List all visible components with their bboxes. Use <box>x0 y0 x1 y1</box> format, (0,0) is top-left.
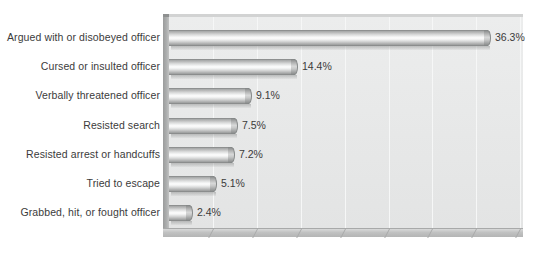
bar-value-label: 5.1% <box>221 177 245 190</box>
category-label: Grabbed, hit, or fought officer <box>0 206 160 218</box>
bar-end-cap <box>210 176 217 192</box>
bar-shadow <box>171 104 251 108</box>
bar-end-cap <box>186 205 193 221</box>
category-label: Resisted arrest or handcuffs <box>0 148 160 160</box>
bar-end-cap <box>484 30 491 46</box>
bar-row: 36.3% <box>169 30 528 46</box>
bar-row: 9.1% <box>169 88 289 104</box>
bar-value-label: 36.3% <box>495 31 525 44</box>
bar[interactable] <box>169 88 249 104</box>
bar-row: 7.2% <box>169 147 272 163</box>
bar-end-cap <box>228 147 235 163</box>
category-label: Cursed or insulted officer <box>0 60 160 72</box>
bar-shadow <box>171 163 234 167</box>
bar-shadow <box>171 75 297 79</box>
category-label: Tried to escape <box>0 177 160 189</box>
category-label: Verbally threatened officer <box>0 89 160 101</box>
bar-end-cap <box>245 88 252 104</box>
bar-row: 14.4% <box>169 59 335 75</box>
bar-row: 5.1% <box>169 176 254 192</box>
bar[interactable] <box>169 176 214 192</box>
bar-shadow <box>171 221 192 225</box>
bar-shadow <box>171 134 237 138</box>
bar-value-label: 7.2% <box>239 148 263 161</box>
bar-chart: Argued with or disobeyed officerCursed o… <box>0 0 540 264</box>
bar-end-cap <box>291 59 298 75</box>
bar-row: 2.4% <box>169 205 230 221</box>
gridline <box>520 17 521 229</box>
bar-shadow <box>171 46 490 50</box>
bar[interactable] <box>169 59 295 75</box>
bar-value-label: 14.4% <box>302 60 332 73</box>
category-label: Argued with or disobeyed officer <box>0 31 160 43</box>
bar-value-label: 2.4% <box>197 206 221 219</box>
bar-value-label: 7.5% <box>242 119 266 132</box>
category-label: Resisted search <box>0 119 160 131</box>
bar[interactable] <box>169 30 488 46</box>
plot-area: 36.3%14.4%9.1%7.5%7.2%5.1%2.4% <box>163 14 523 237</box>
bar-end-cap <box>231 118 238 134</box>
bar[interactable] <box>169 118 235 134</box>
category-axis: Argued with or disobeyed officerCursed o… <box>0 14 160 237</box>
bar-value-label: 9.1% <box>256 89 280 102</box>
bar-shadow <box>171 192 216 196</box>
bar-row: 7.5% <box>169 118 275 134</box>
bar[interactable] <box>169 147 232 163</box>
